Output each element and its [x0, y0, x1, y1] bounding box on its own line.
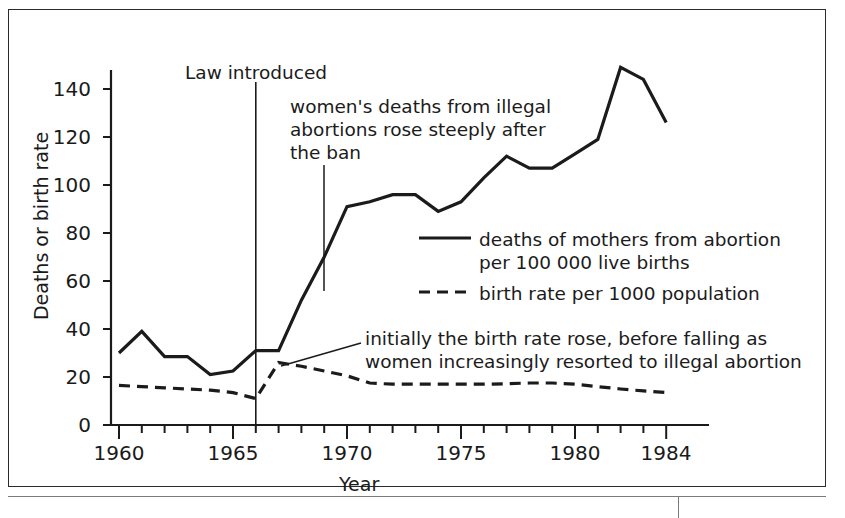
annotation-deaths-rose: women's deaths from illegal abortions ro…	[290, 95, 551, 164]
x-axis-title: Year	[339, 473, 379, 495]
y-tick-label-140: 140	[31, 79, 91, 99]
page-edge-divider	[678, 496, 679, 518]
x-tick-marks	[119, 425, 666, 439]
legend-label-deaths: deaths of mothers from abortion per 100 …	[479, 228, 781, 274]
birth-rate-leader-line	[281, 343, 361, 366]
y-tick-label-0: 0	[31, 415, 91, 435]
x-tick-label-1970: 1970	[302, 443, 392, 463]
x-tick-label-1984: 1984	[621, 443, 711, 463]
x-tick-label-1960: 1960	[74, 443, 164, 463]
y-tick-marks	[103, 89, 111, 425]
figure-frame: 140 120 100 80 60 40 20 0 1960 1965 1970…	[8, 9, 826, 487]
x-tick-label-1975: 1975	[416, 443, 506, 463]
page-edge-line	[8, 496, 826, 497]
annotation-law-introduced: Law introduced	[185, 61, 327, 84]
y-tick-label-20: 20	[31, 367, 91, 387]
x-tick-label-1980: 1980	[530, 443, 620, 463]
y-axis-title: Deaths or birth rate	[30, 116, 52, 336]
x-tick-label-1965: 1965	[188, 443, 278, 463]
annotation-birth-rate-rose: initially the birth rate rose, before fa…	[365, 327, 802, 373]
legend-label-birth-rate: birth rate per 1000 population	[479, 282, 760, 305]
